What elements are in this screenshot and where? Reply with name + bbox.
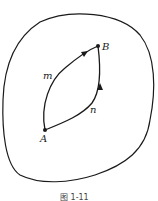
figure-caption: 图 1-11 [60, 193, 89, 201]
label-a: A [39, 133, 47, 144]
path-n [45, 46, 100, 130]
arrow-m-icon [81, 51, 88, 57]
point-b [96, 44, 100, 48]
path-diagram: A B m n 图 1-11 [0, 0, 158, 201]
path-m [44, 46, 98, 130]
label-n: n [90, 104, 96, 115]
label-b: B [101, 41, 109, 52]
outer-region-boundary [3, 14, 154, 182]
label-m: m [43, 70, 52, 81]
point-a [43, 128, 47, 132]
